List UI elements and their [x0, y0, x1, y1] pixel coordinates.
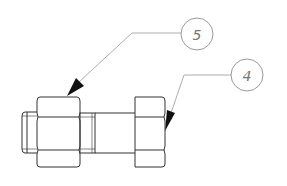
- callout-balloon-4: 4: [231, 59, 263, 91]
- thread-section: [80, 113, 95, 153]
- bolt-shaft: [95, 113, 135, 153]
- bolt-end: [22, 112, 37, 153]
- balloon-number: 4: [243, 68, 252, 84]
- balloon-number: 5: [193, 27, 202, 43]
- leader-line-5: [67, 33, 181, 96]
- arrowhead-icon: [165, 110, 175, 131]
- assembly-drawing: 5 4: [0, 0, 287, 186]
- right-hex-nut: [135, 97, 165, 167]
- leader-line: [79, 33, 181, 82]
- left-hex-nut: [37, 97, 80, 167]
- leader-line-4: [165, 75, 231, 131]
- leader-line: [171, 75, 231, 113]
- arrowhead-icon: [67, 78, 84, 96]
- callout-balloon-5: 5: [181, 18, 213, 50]
